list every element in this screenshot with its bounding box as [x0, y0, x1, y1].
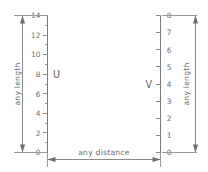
axis-u-tick-label: 10: [31, 50, 41, 59]
dim-right-label: any length: [182, 62, 191, 105]
dimension-any-distance: any distance: [48, 148, 161, 167]
axis-u-tick-label: 12: [31, 31, 41, 40]
axis-u-name-label: U: [53, 69, 60, 80]
axis-diagram-svg: 14 12 10 8 6 4 2 0 U any length: [0, 0, 208, 172]
dim-bottom-label: any distance: [78, 148, 130, 157]
dim-left-arrow-bottom: [20, 145, 25, 153]
dimension-left-any-length: any length: [13, 16, 47, 153]
axis-v-tick-label: 5: [167, 63, 172, 72]
diagram-canvas: 14 12 10 8 6 4 2 0 U any length: [0, 0, 208, 172]
axis-v-tick-label: 3: [167, 97, 172, 106]
dim-bottom-arrow-left: [48, 157, 56, 162]
dim-left-arrow-top: [20, 16, 25, 24]
axis-v-ticks: [156, 16, 161, 153]
dim-left-label: any length: [13, 62, 22, 105]
axis-u-tick-label: 2: [36, 129, 41, 138]
axis-u-group: 14 12 10 8 6 4 2 0 U: [31, 11, 60, 157]
axis-v-tick-label: 7: [167, 28, 172, 37]
dim-right-arrow-bottom: [193, 145, 198, 153]
axis-v-tick-label: 4: [167, 80, 172, 89]
axis-v-name-label: V: [145, 79, 152, 90]
axis-u-tick-label: 4: [36, 109, 41, 118]
axis-u-tick-label: 6: [36, 90, 41, 99]
axis-v-tick-label: 1: [167, 131, 172, 140]
axis-v-tick-label: 6: [167, 46, 172, 55]
dim-right-arrow-top: [193, 16, 198, 24]
dim-bottom-arrow-right: [153, 157, 161, 162]
axis-v-group: 8 7 6 5 4 3 2 1 0 V: [145, 11, 171, 157]
axis-v-tick-label: 2: [167, 114, 172, 123]
axis-u-tick-label: 8: [36, 70, 41, 79]
